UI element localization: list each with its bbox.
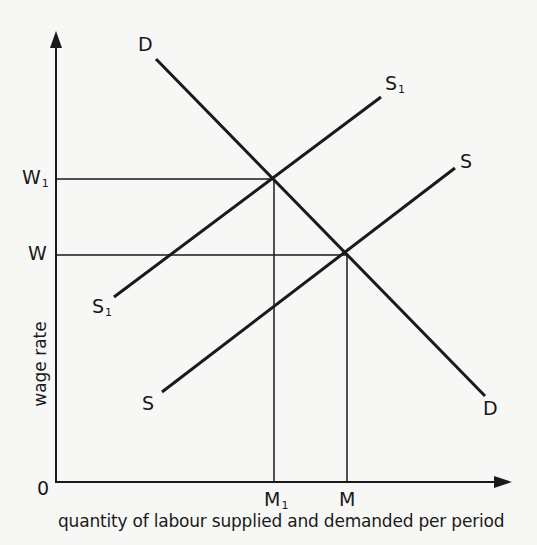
labour-market-diagram: D D S1 S1 S S W1 W M1 M 0 wage rate quan… [0, 0, 537, 545]
supply-s1-label-bottom: S1 [92, 297, 112, 318]
w1-label: W1 [22, 168, 49, 189]
demand-label-top: D [138, 35, 153, 54]
supply-s-label-top: S [460, 152, 472, 171]
supply-s1-label-top: S1 [385, 74, 405, 95]
diagram-canvas [0, 0, 537, 545]
supply-curve-s1 [114, 97, 381, 297]
demand-label-bottom: D [483, 399, 498, 418]
m-label: M [339, 490, 355, 509]
supply-curve-s [162, 168, 455, 392]
w-label: W [28, 244, 47, 263]
y-axis-arrow-icon [50, 31, 62, 48]
supply-s-label-bottom: S [142, 394, 154, 413]
origin-label: 0 [37, 479, 49, 498]
m1-label: M1 [264, 490, 288, 511]
x-axis-title: quantity of labour supplied and demanded… [58, 511, 504, 531]
y-axis-title: wage rate [30, 321, 50, 407]
x-axis-arrow-icon [494, 476, 512, 488]
